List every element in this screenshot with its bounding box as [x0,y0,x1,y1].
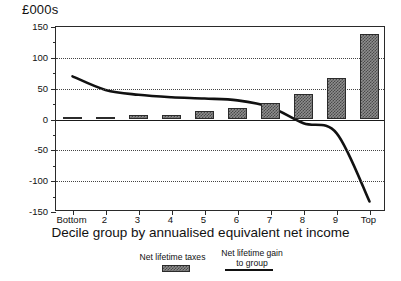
y-minor-tick-75 [53,73,56,74]
y-minor-tick--125 [53,197,56,198]
x-tick-label-4: 4 [168,214,173,225]
y-tick-100 [51,58,56,59]
y-tick-label-0: 0 [14,113,48,124]
bar-2 [96,117,116,119]
x-axis-title: Decile group by annualised equivalent ne… [0,225,401,240]
bar-5 [195,111,215,120]
bar-bottom [63,117,83,119]
y-tick-50 [51,89,56,90]
bar-4 [162,115,182,120]
y-axis-unit-label: £000s [22,2,58,17]
bar-3 [129,115,149,119]
legend-swatch-line [225,269,273,271]
x-tick-label-8: 8 [300,214,305,225]
y-tick-label--150: -150 [14,206,48,217]
gridline-100 [56,58,384,59]
y-tick-label--50: -50 [14,144,48,155]
bar-7 [261,103,281,119]
bar-8 [294,94,314,119]
x-tick-label-7: 7 [267,214,272,225]
x-tick-label-bottom: Bottom [56,214,86,225]
zero-line [56,120,384,121]
y-tick--50 [51,150,56,151]
y-minor-tick-125 [53,42,56,43]
chart-root: £000s 150100500-50-100-150 Bottom2345678… [0,0,401,281]
bar-9 [327,78,347,119]
plot-area [55,26,385,211]
legend-label-line-part1: Net lifetime gain [221,248,283,258]
legend-label-line-part2: to group [236,258,268,268]
y-minor-tick--25 [53,135,56,136]
y-tick-label-150: 150 [14,21,48,32]
y-tick--150 [51,212,56,213]
chart-legend: Net lifetime taxes Net lifetime gain to … [0,250,401,281]
y-tick-label-100: 100 [14,51,48,62]
x-tick-label-top: Top [361,214,376,225]
gridline--50 [56,150,384,151]
y-tick-label-50: 50 [14,82,48,93]
y-minor-tick--75 [53,166,56,167]
gridline--100 [56,181,384,182]
y-tick-150 [51,27,56,28]
y-tick-0 [51,120,56,121]
legend-swatch-bars [162,265,190,272]
y-minor-tick-25 [53,104,56,105]
legend-label-line: Net lifetime gain to group [197,248,307,268]
bar-6 [228,108,248,119]
x-tick-label-5: 5 [201,214,206,225]
x-tick-label-2: 2 [102,214,107,225]
gain-line-path [73,76,370,201]
y-tick--100 [51,181,56,182]
x-tick-label-9: 9 [333,214,338,225]
bar-top [360,34,380,119]
y-tick-label--100: -100 [14,175,48,186]
x-tick-label-3: 3 [135,214,140,225]
x-tick-label-6: 6 [234,214,239,225]
